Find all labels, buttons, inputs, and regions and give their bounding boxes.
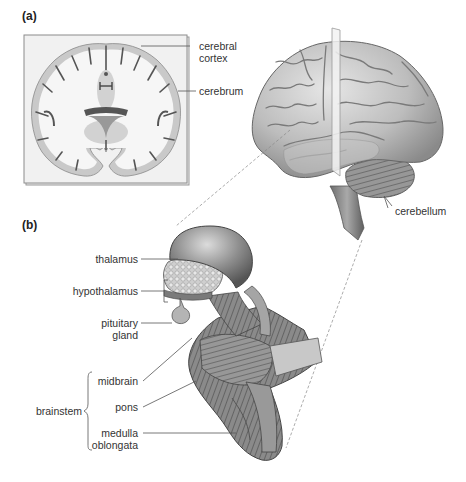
coronal-section xyxy=(24,35,189,185)
label-brainstem: brainstem xyxy=(36,405,82,417)
label-midbrain: midbrain xyxy=(98,375,138,387)
label-thalamus: thalamus xyxy=(95,253,138,265)
panel-label-a: (a) xyxy=(22,9,37,23)
label-pituitary-gland: pituitary gland xyxy=(101,317,138,341)
label-cerebral-cortex: cerebral cortex xyxy=(199,40,237,64)
leader-cerebellum xyxy=(384,196,392,206)
label-cerebellum: cerebellum xyxy=(395,205,446,217)
label-pituitary-line1: pituitary xyxy=(101,317,138,329)
label-cerebral-cortex-line1: cerebral xyxy=(199,40,237,52)
label-medulla-oblongata: medulla oblongata xyxy=(92,427,138,451)
label-cerebrum: cerebrum xyxy=(199,85,243,97)
label-medulla-line2: oblongata xyxy=(92,439,138,451)
label-medulla-line1: medulla xyxy=(92,427,138,439)
label-hypothalamus: hypothalamus xyxy=(73,285,138,297)
label-pituitary-line2: gland xyxy=(101,329,138,341)
label-pons: pons xyxy=(115,401,138,413)
panel-label-b: (b) xyxy=(22,218,37,232)
brainstem-detail xyxy=(164,226,323,460)
label-cerebral-cortex-line2: cortex xyxy=(199,52,237,64)
